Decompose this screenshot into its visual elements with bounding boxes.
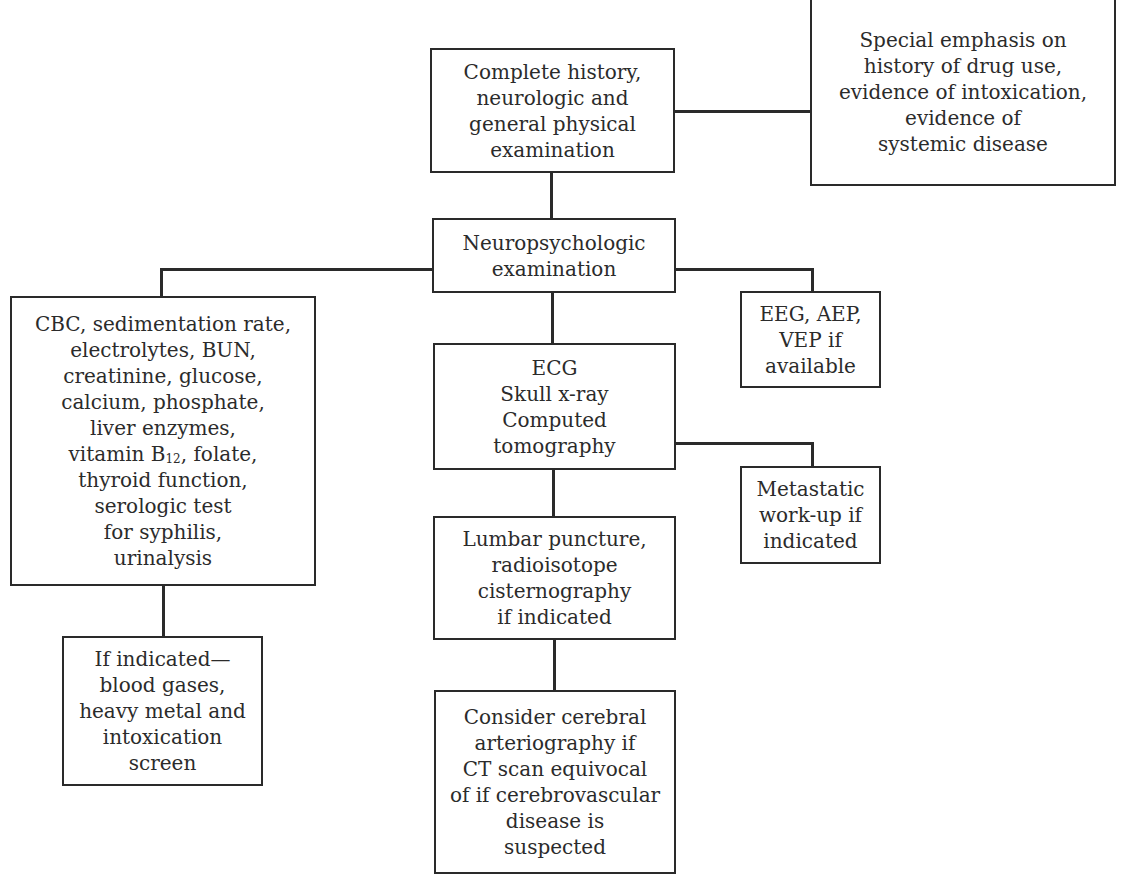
- node-eeg-line: EEG, AEP,: [760, 301, 862, 327]
- connector-neuropsych-labs-h: [160, 268, 433, 271]
- node-metastatic: Metastatic work-up if indicated: [740, 466, 881, 564]
- node-lumbar: Lumbar puncture, radioisotope cisternogr…: [433, 516, 676, 640]
- node-history-line: neurologic and: [476, 85, 628, 111]
- connector-history-neuropsych: [550, 172, 553, 219]
- node-special-line: history of drug use,: [864, 53, 1062, 79]
- node-eeg: EEG, AEP, VEP if available: [740, 291, 881, 388]
- node-arteriography-line: CT scan equivocal: [463, 756, 647, 782]
- node-arteriography-line: of if cerebrovascular: [450, 782, 660, 808]
- node-history-line: Complete history,: [464, 59, 642, 85]
- node-lumbar-line: Lumbar puncture,: [462, 526, 646, 552]
- node-lumbar-line: if indicated: [497, 604, 611, 630]
- node-special-line: Special emphasis on: [859, 27, 1066, 53]
- node-metastatic-line: indicated: [763, 528, 857, 554]
- node-if-indicated: If indicated— blood gases, heavy metal a…: [62, 636, 263, 786]
- node-special-line: systemic disease: [878, 131, 1048, 157]
- vitamin-suffix: , folate,: [181, 442, 258, 466]
- node-imaging: ECG Skull x-ray Computed tomography: [433, 343, 676, 470]
- node-labs: CBC, sedimentation rate, electrolytes, B…: [10, 296, 316, 586]
- node-metastatic-line: work-up if: [759, 502, 862, 528]
- node-lumbar-line: cisternography: [478, 578, 632, 604]
- node-imaging-line: Skull x-ray: [500, 381, 608, 407]
- node-ifindicated-line: screen: [129, 750, 197, 776]
- node-labs-line: creatinine, glucose,: [63, 363, 262, 389]
- vitamin-prefix: vitamin B: [69, 442, 166, 466]
- node-arteriography-line: suspected: [504, 834, 606, 860]
- node-imaging-line: tomography: [493, 433, 615, 459]
- node-neuropsych-line: examination: [492, 256, 617, 282]
- node-ifindicated-line: blood gases,: [100, 672, 226, 698]
- node-ifindicated-line: heavy metal and: [79, 698, 246, 724]
- node-imaging-line: Computed: [502, 407, 607, 433]
- flowchart-canvas: Complete history, neurologic and general…: [0, 0, 1124, 887]
- node-arteriography-line: arteriography if: [475, 730, 636, 756]
- node-arteriography: Consider cerebral arteriography if CT sc…: [434, 690, 676, 874]
- node-arteriography-line: Consider cerebral: [464, 704, 647, 730]
- node-labs-line: calcium, phosphate,: [61, 389, 265, 415]
- node-ifindicated-line: intoxication: [103, 724, 223, 750]
- node-neuropsych: Neuropsychologic examination: [432, 218, 676, 293]
- node-eeg-line: VEP if: [779, 327, 842, 353]
- node-neuropsych-line: Neuropsychologic: [462, 230, 645, 256]
- connector-neuropsych-imaging: [551, 292, 554, 344]
- node-labs-line: electrolytes, BUN,: [70, 337, 256, 363]
- node-labs-line: liver enzymes,: [90, 415, 236, 441]
- connector-labs-ifindicated: [162, 585, 165, 637]
- connector-imaging-lumbar: [552, 469, 555, 518]
- node-ifindicated-line: If indicated—: [95, 646, 231, 672]
- node-labs-line: urinalysis: [114, 545, 212, 571]
- node-labs-line: for syphilis,: [104, 519, 222, 545]
- node-special-line: evidence of intoxication,: [839, 79, 1087, 105]
- node-history-line: general physical: [469, 111, 636, 137]
- node-lumbar-line: radioisotope: [491, 552, 617, 578]
- vitamin-subscript: 12: [165, 452, 180, 466]
- node-history-line: examination: [490, 137, 615, 163]
- connector-neuropsych-eeg-v: [811, 268, 814, 293]
- node-special-emphasis: Special emphasis on history of drug use,…: [810, 0, 1116, 186]
- connector-history-special: [674, 110, 811, 113]
- node-labs-line: CBC, sedimentation rate,: [35, 311, 291, 337]
- node-labs-line: thyroid function,: [78, 467, 247, 493]
- connector-imaging-metastatic-v: [811, 442, 814, 468]
- node-eeg-line: available: [765, 353, 856, 379]
- node-labs-vitamin-line: vitamin B12, folate,: [69, 441, 258, 467]
- node-labs-line: serologic test: [94, 493, 231, 519]
- connector-lumbar-arteriography: [553, 639, 556, 691]
- connector-imaging-metastatic-h: [675, 442, 814, 445]
- node-metastatic-line: Metastatic: [756, 476, 864, 502]
- connector-neuropsych-eeg-h: [675, 268, 814, 271]
- node-arteriography-line: disease is: [506, 808, 604, 834]
- connector-neuropsych-labs-v: [160, 268, 163, 298]
- node-history: Complete history, neurologic and general…: [430, 48, 675, 173]
- node-special-line: evidence of: [905, 105, 1021, 131]
- node-imaging-line: ECG: [532, 355, 578, 381]
